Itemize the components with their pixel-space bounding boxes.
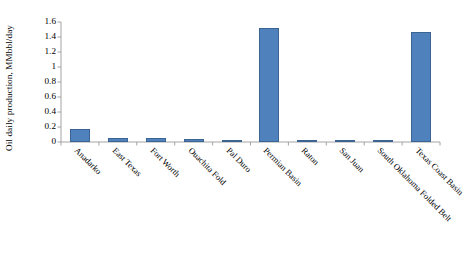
y-axis-title: Oil daily production, MMbbl/day — [0, 0, 18, 175]
bar-slot — [61, 22, 99, 142]
bar-slot — [137, 22, 175, 142]
category-slot: Permian Basin — [251, 144, 289, 264]
y-axis-tick-label: 1.4 — [22, 32, 56, 41]
category-slot: San Juan — [326, 144, 364, 264]
bar[interactable] — [373, 140, 393, 142]
y-axis-tick-label: 0.4 — [22, 107, 56, 116]
bar[interactable] — [297, 140, 317, 142]
bar[interactable] — [146, 138, 166, 142]
y-axis-tick-label: 0.2 — [22, 122, 56, 131]
y-axis-tick-label: 1.6 — [22, 17, 56, 26]
bar-slot — [251, 22, 289, 142]
y-axis-tick-label: 0.6 — [22, 92, 56, 101]
y-axis-tick-label: 1 — [22, 62, 56, 71]
x-axis-category-label: San Juan — [338, 146, 366, 174]
y-axis-tick-labels: 1.61.41.210.80.60.40.20 — [20, 0, 56, 265]
bars-layer — [61, 22, 440, 142]
bar-slot — [99, 22, 137, 142]
bar-slot — [364, 22, 402, 142]
y-axis-title-text: Oil daily production, MMbbl/day — [4, 24, 14, 150]
bar[interactable] — [70, 129, 90, 142]
category-slot: Ouachita Fold — [175, 144, 213, 264]
category-slot: Texas Coast Basin — [402, 144, 440, 264]
x-axis-category-label: Pal Duro — [224, 146, 252, 174]
bar[interactable] — [184, 139, 204, 142]
bar-slot — [326, 22, 364, 142]
category-slot: Pal Duro — [213, 144, 251, 264]
bar[interactable] — [222, 140, 242, 142]
bar-slot — [175, 22, 213, 142]
x-axis-category-labels: AnadarkoEast TexasFort WorthOuachita Fol… — [61, 144, 440, 264]
category-slot: South Oklahoma Folded Belt — [364, 144, 402, 264]
bar[interactable] — [411, 32, 431, 142]
bar-slot — [213, 22, 251, 142]
bar-slot — [288, 22, 326, 142]
bar[interactable] — [108, 138, 128, 143]
category-slot: East Texas — [99, 144, 137, 264]
category-slot: Anadarko — [61, 144, 99, 264]
y-axis-tick-label: 0.8 — [22, 77, 56, 86]
y-axis-tick-label: 0 — [22, 137, 56, 146]
x-axis-category-label: Texas Coast Basin — [414, 146, 465, 197]
bar[interactable] — [259, 28, 279, 142]
bar-slot — [402, 22, 440, 142]
x-axis-category-label: Raton — [300, 146, 321, 167]
y-axis-tick-label: 1.2 — [22, 47, 56, 56]
category-slot: Raton — [288, 144, 326, 264]
bar[interactable] — [335, 140, 355, 142]
category-slot: Fort Worth — [137, 144, 175, 264]
